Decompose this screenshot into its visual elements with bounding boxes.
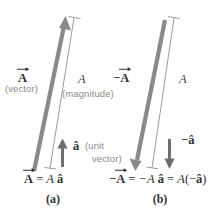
unit-vector-minus-b-symbol: â [188,133,194,147]
equation-a-unit: â [57,172,63,186]
unit-vector-a-note-line1: (unit [85,141,104,152]
magnitude-a-label: A [78,72,86,86]
panel-b-caption: (b) [107,192,213,207]
panel-b: − A A −â − A = −A â = [107,0,213,216]
equation-b-paren-close: ) [202,172,206,186]
equation-b-lhs-letter: A [116,172,125,186]
equation-a-lhs-letter: A [24,172,33,186]
equation-b-scalar: −A [138,172,154,186]
vector-minus-a-sign: − [113,71,120,85]
vector-minus-a-symbol: A [120,71,129,85]
equation-a-lhs: A [24,172,33,187]
equation-b-lhs: A [116,172,125,187]
equation-b-equals-1: = [128,172,135,186]
equation-b-equals-2: = [167,172,174,186]
unit-vector-minus-b-label: −â [181,133,194,147]
equation-a-equals: = [36,172,43,186]
equation-b: − A = −A â = A(−â) [109,172,207,187]
equation-b-scalar-2: A [177,172,185,186]
vector-minus-a-label: − A [113,68,129,86]
equation-b-lhs-sign: − [109,172,116,186]
panel-a: A (vector) A (magnitude) â (unit vector)… [0,0,106,216]
vector-figure: A (vector) A (magnitude) â (unit vector)… [0,0,213,216]
equation-b-paren-open: (− [185,172,196,186]
panel-a-caption: (a) [0,192,106,207]
equation-a: A = A â [24,172,63,187]
vector-minus-a-letter: A [120,71,129,85]
short-down-arrow-icon [164,139,174,169]
vector-a-note: (vector) [5,84,38,95]
short-up-arrow-icon [57,139,67,168]
magnitude-b-label: A [179,72,187,86]
unit-vector-a-symbol: â [73,139,79,153]
equation-a-scalar: A [46,172,54,186]
equation-b-unit: â [158,172,164,186]
thick-down-arrow-icon [130,20,165,171]
